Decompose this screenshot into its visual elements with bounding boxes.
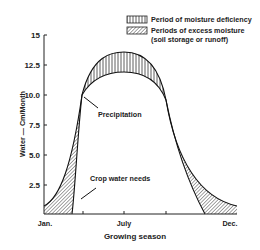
x-tick-jan: Jan.: [38, 219, 52, 228]
excess-moisture-region-right: [166, 100, 237, 214]
legend-label-deficiency: Period of moisture deficiency: [151, 15, 252, 24]
x-axis-title: Growing season: [104, 232, 166, 241]
legend-swatch-excess: [127, 27, 147, 34]
precipitation-annotation: Precipitation: [98, 110, 142, 119]
x-tick-july: July: [117, 219, 131, 228]
y-tick-12-5: 12.5: [24, 61, 40, 70]
excess-moisture-region-left: [44, 95, 82, 214]
legend-swatch-deficiency: [127, 16, 147, 23]
precipitation-pointer: [84, 97, 98, 108]
y-tick-7-5: 7.5: [29, 121, 41, 130]
legend-label-excess-sub: (soil storage or runoff): [151, 35, 229, 44]
y-tick-5: 5.0: [29, 151, 41, 160]
x-tick-dec: Dec.: [222, 219, 237, 228]
legend: Period of moisture deficiency Periods of…: [127, 15, 252, 44]
y-axis-title: Water — Cm/Month: [18, 91, 27, 157]
y-tick-2-5: 2.5: [29, 181, 41, 190]
crop-water-needs-curve: [72, 72, 205, 214]
y-tick-15: 15: [31, 31, 40, 40]
water-balance-chart: Period of moisture deficiency Periods of…: [0, 0, 260, 250]
crop-needs-pointer: [81, 188, 96, 199]
crop-needs-annotation: Crop water needs: [90, 174, 150, 183]
legend-label-excess: Periods of excess moisture: [151, 26, 244, 35]
moisture-deficiency-region: [82, 52, 166, 100]
